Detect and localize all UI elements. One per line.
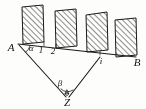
figure-canvas: A B Z α β 1 2 i (0, 0, 146, 109)
point-label-B: B (134, 56, 141, 68)
point-label-A: A (7, 41, 15, 53)
station-label-1: 1 (39, 45, 44, 55)
bar-1 (22, 5, 44, 44)
point-label-Z: Z (64, 96, 71, 108)
angle-label-alpha: α (29, 43, 34, 53)
station-label-i: i (100, 56, 103, 66)
angle-label-beta: β (57, 78, 63, 88)
station-marker-Z-icon (65, 90, 69, 95)
bar-3 (86, 12, 108, 52)
sight-line-i-Z (69, 57, 100, 97)
geometry-diagram: A B Z α β 1 2 i (0, 0, 146, 109)
bar-2 (55, 9, 77, 48)
bar-4 (115, 18, 137, 57)
station-label-2: 2 (51, 46, 56, 56)
